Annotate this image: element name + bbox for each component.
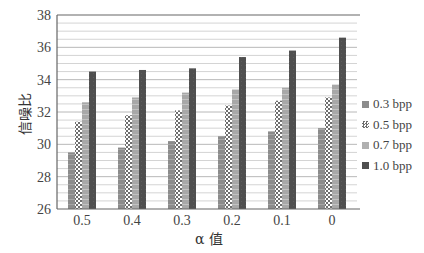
x-tick-label: 0.2 [223,213,241,228]
bar [282,88,289,209]
legend-label: 1.0 bpp [373,158,412,174]
legend-swatch-icon [362,162,369,169]
gridlines [57,23,357,201]
x-tick-label: 0.4 [123,213,141,228]
bar [125,115,132,209]
x-tick-label: 0 [329,213,336,228]
legend-item: 1.0 bpp [362,156,412,177]
bar [232,89,239,209]
bar [75,122,82,209]
bar [268,131,275,209]
y-tick-label: 30 [37,137,51,152]
bar [89,72,96,209]
legend-item: 0.7 bpp [362,135,412,156]
bar-chart: 26283032343638 0.50.40.30.20.10 信噪比 α 值 [0,0,424,253]
bar [82,102,89,209]
legend-item: 0.5 bpp [362,115,412,136]
legend-label: 0.5 bpp [373,117,412,133]
y-tick-label: 32 [37,105,51,120]
x-tick-label: 0.1 [273,213,291,228]
bar [218,136,225,209]
legend-label: 0.3 bpp [373,96,412,112]
y-tick-label: 38 [37,8,51,23]
legend-swatch-icon [362,101,369,108]
x-tick-label: 0.5 [73,213,91,228]
bar [325,97,332,209]
bar [132,97,139,209]
bar [68,152,75,209]
bar [289,51,296,209]
y-tick-label: 36 [37,40,51,55]
legend-item: 0.3 bpp [362,94,412,115]
x-tick-label: 0.3 [173,213,191,228]
legend: 0.3 bpp 0.5 bpp 0.7 bpp 1.0 bpp [362,94,412,176]
bar [318,128,325,209]
legend-label: 0.7 bpp [373,137,412,153]
bar [239,57,246,209]
bar [332,85,339,209]
bar [139,70,146,209]
legend-swatch-icon [362,142,369,149]
bar [175,110,182,209]
x-axis-label: α 值 [195,231,223,247]
y-axis-label: 信噪比 [17,93,33,135]
bar [168,141,175,209]
bar [339,38,346,209]
bar [275,101,282,209]
legend-swatch-icon [362,121,369,128]
y-tick-label: 26 [37,202,51,217]
bar [189,68,196,209]
x-tick-labels: 0.50.40.30.20.10 [73,213,335,228]
y-tick-labels: 26283032343638 [37,8,51,217]
bar [225,106,232,209]
bar [118,148,125,209]
bar [182,93,189,209]
y-tick-label: 34 [37,73,51,88]
y-tick-label: 28 [37,170,51,185]
